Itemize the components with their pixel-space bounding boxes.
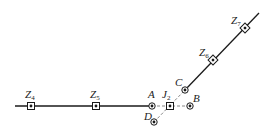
- diagonal-track: [185, 13, 259, 90]
- label-c: C: [175, 76, 183, 88]
- label-d: D: [143, 110, 152, 122]
- node-z4: [28, 103, 35, 110]
- label-j2: J2: [162, 88, 171, 102]
- node-c: [182, 87, 188, 93]
- label-a: A: [147, 88, 155, 100]
- label-z6: Z6: [199, 46, 209, 60]
- label-z4: Z4: [25, 88, 35, 102]
- node-a: [149, 103, 155, 109]
- node-z5: [93, 103, 100, 110]
- label-b: B: [193, 92, 200, 104]
- label-z5: Z5: [90, 88, 100, 102]
- label-z7: Z7: [231, 14, 241, 28]
- node-j2: [167, 103, 174, 110]
- junction-diagram: Z4 Z5 A J2 B C D Z6 Z7: [0, 0, 270, 136]
